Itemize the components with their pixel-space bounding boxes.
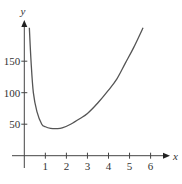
x-tick-label: 6 [148,160,154,172]
x-tick-label: 1 [43,160,49,172]
chart: y x 123456 50100150 [0,0,182,184]
x-axis-title: x [172,150,178,162]
data-curve [29,28,143,129]
x-tick-label: 2 [64,160,70,172]
x-tick-label: 5 [127,160,133,172]
y-tick-label: 100 [4,87,21,99]
y-axis-arrow-icon [21,20,27,27]
y-tick-label: 150 [4,55,21,67]
y-tick-label: 50 [9,118,21,130]
y-axis-title: y [20,5,26,17]
y-ticks: 50100150 [4,55,28,130]
x-axis-arrow-icon [163,153,170,159]
x-tick-label: 4 [106,160,112,172]
x-tick-label: 3 [85,160,91,172]
